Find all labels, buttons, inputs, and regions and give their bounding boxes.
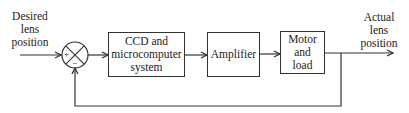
minus-sign: − <box>72 59 77 68</box>
output-label-line: position <box>352 37 406 50</box>
block-text: load <box>288 59 317 72</box>
block-text: system <box>111 61 181 74</box>
input-label-line: Desired <box>4 10 56 23</box>
output-label-line: Actual <box>352 11 406 24</box>
connections <box>0 0 409 113</box>
output-label-line: lens <box>352 24 406 37</box>
output-label: Actual lens position <box>352 11 406 50</box>
amplifier-block: Amplifier <box>207 32 260 77</box>
ccd-microcomputer-block: CCD and microcomputer system <box>108 32 185 77</box>
motor-and-load-block: Motor and load <box>280 31 325 74</box>
block-text: Motor <box>288 33 317 46</box>
input-label: Desired lens position <box>4 10 56 49</box>
block-text: microcomputer <box>111 48 181 61</box>
block-text: and <box>288 46 317 59</box>
block-diagram: Desired lens position + − CCD and microc… <box>0 0 409 113</box>
block-text: CCD and <box>111 35 181 48</box>
input-label-line: lens <box>4 23 56 36</box>
block-text: Amplifier <box>211 48 256 61</box>
plus-sign: + <box>64 50 69 59</box>
input-label-line: position <box>4 36 56 49</box>
